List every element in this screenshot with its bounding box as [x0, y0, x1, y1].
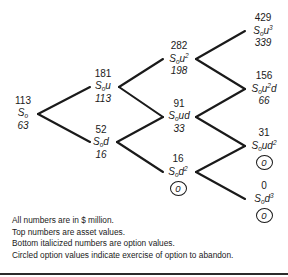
node-s0ud2-symbol: Soud2	[243, 140, 285, 153]
branch-d-up	[117, 117, 163, 142]
node-s0ud2-asset-value: 31	[243, 128, 285, 140]
node-s0u2d-asset-value: 156	[242, 71, 286, 83]
node-s0u-asset-value: 181	[86, 69, 120, 81]
branch-root-up	[38, 87, 90, 114]
node-s0u3: 429 Sou3 339	[244, 13, 282, 50]
branch-u-down	[119, 87, 163, 117]
node-s0u3-option-value: 339	[244, 38, 282, 50]
node-s0d: 52 Sod 16	[84, 125, 118, 162]
node-s0ud2: 31 Soud2 0	[243, 128, 285, 170]
branch-ud-up	[196, 89, 245, 117]
branch-root-down	[38, 114, 90, 142]
binomial-tree-figure: 113 So 63 181 Sou 113 52 Sod 16 282 Sou2…	[0, 0, 288, 277]
caption-line-units: All numbers are in $ million.	[12, 215, 114, 227]
node-s0u2: 282 Sou2 198	[160, 41, 198, 78]
node-s0: 113 So 63	[6, 96, 40, 133]
node-s0u2-asset-value: 282	[160, 41, 198, 53]
node-s0u2-option-value: 198	[160, 66, 198, 78]
caption-line-circled-meaning: Circled option values indicate exercise …	[12, 250, 233, 262]
node-s0d3-option-value-circled: 0	[256, 208, 273, 223]
node-s0d-option-value: 16	[84, 150, 118, 162]
caption-line-asset-values: Top numbers are asset values.	[12, 227, 125, 239]
node-s0-option-value: 63	[6, 121, 40, 133]
node-s0u: 181 Sou 113	[86, 69, 120, 106]
node-s0d2: 16 Sod2 0	[159, 154, 197, 196]
node-s0ud-option-value: 33	[159, 124, 199, 136]
branch-dd-down	[196, 172, 245, 199]
bottom-divider	[0, 273, 288, 276]
branch-dd-up	[196, 146, 245, 172]
branch-uu-down	[196, 59, 245, 89]
branch-ud-down	[196, 117, 245, 146]
node-s0d3: 0 Sod3 0	[245, 181, 283, 223]
node-s0ud: 91 Soud 33	[159, 99, 199, 136]
caption-line-option-values: Bottom italicized numbers are option val…	[12, 238, 175, 250]
node-s0u-option-value: 113	[86, 94, 120, 106]
node-s0d2-option-value-circled: 0	[170, 181, 187, 196]
node-s0d2-symbol: Sod2	[159, 166, 197, 179]
node-s0u2d: 156 Sou2d 66	[242, 71, 286, 108]
node-s0d-asset-value: 52	[84, 125, 118, 137]
branch-d-down	[117, 142, 163, 172]
node-s0d3-asset-value: 0	[245, 181, 283, 193]
branch-uu-up	[196, 31, 245, 59]
node-s0ud2-option-value-circled: 0	[256, 155, 273, 170]
node-s0d3-symbol: Sod3	[245, 193, 283, 206]
node-s0d2-asset-value: 16	[159, 154, 197, 166]
node-s0u2d-option-value: 66	[242, 96, 286, 108]
node-s0u3-asset-value: 429	[244, 13, 282, 25]
branch-u-up	[119, 59, 163, 87]
